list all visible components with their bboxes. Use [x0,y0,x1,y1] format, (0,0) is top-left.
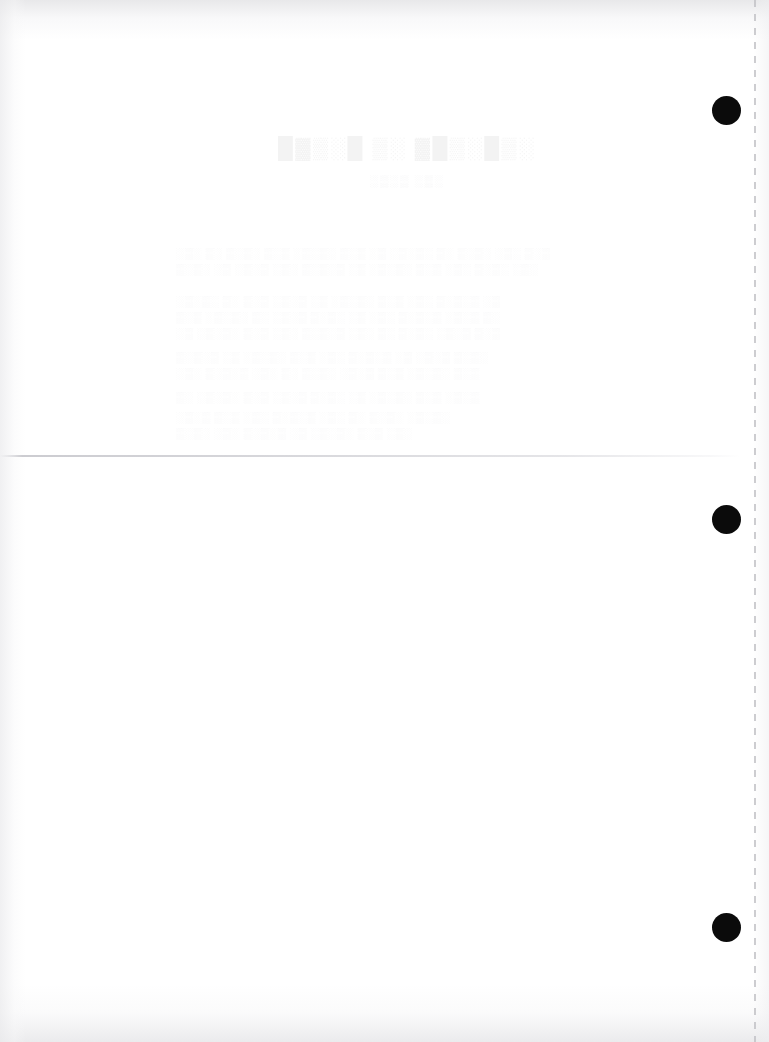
ghost-body-line: ░▒ ░▒░▒░ ▒░▒ ░▒░ ▒░▒░▒ ░▒░ ▒░ ▒░▒░ ░▒░▒ … [176,328,500,340]
ghost-body-line: ▒░▒░▒ ░▒ ░▒░▒░ ▒░▒ ░▒░ ▒░▒░▒ ░▒ ░▒░▒ ▒░▒… [176,352,488,364]
ghost-body-line: ▒░ ░▒░▒░ ▒░▒ ░▒░▒ ▒░▒░ ░▒ ░▒░▒░ ▒░▒ ░▒░▒ [176,392,480,404]
perforation-strip [754,0,756,1042]
ghost-title-line: █▓▒░█ ▒░ ▓█▒░█▒░ [278,136,536,161]
ghost-body-line: ▒░▒ ░▒░▒░ ▒░ ░▒░▒ ▒░▒░ ░▒ ░▒░ ▒░▒░▒ ░▒░▒… [176,312,500,324]
bleed-through-text-layer: █▓▒░█ ▒░ ▓█▒░█▒░ ░▒░▒ ░▒░ ░▒░ ▒░ ▒░▒░ ▒░… [0,0,769,1042]
page-edge-shading-left [0,0,26,1042]
bottom-registration-dot [712,913,741,942]
page-edge-shading-bottom [0,984,769,1042]
page-edge-shading-top [0,0,769,40]
page-edge-shading-right [753,0,769,1042]
ghost-body-line: ▒░▒░ ░▒ ░▒░▒ ░▒░ ▒░▒░▒ ░▒ ░▒░▒░ ▒░▒ ░▒░ … [176,264,538,276]
top-registration-dot [712,96,741,125]
ghost-subtitle-line: ░▒░▒ ░▒░ [370,174,445,189]
middle-registration-dot [712,505,741,534]
ghost-body-line: ░▒░▒░ ▒░ ▒░▒ ░▒░▒ ░▒ ░▒░▒░ ▒░▒ ░▒░ ▒░▒░▒… [176,296,500,308]
ghost-body-line: ░▒░▒ ▒░▒ ░▒░ ▒░▒░▒ ░▒░ ▒░ ▒░▒░ ░▒░▒░ [176,412,450,424]
fold-crease-line [0,455,740,457]
ghost-body-line: ░▒░ ▒░ ▒░▒░ ▒░▒ ░▒░▒░ ▒░▒ ░▒ ░▒░▒░ ▒░ ▒░… [176,248,550,260]
scanned-page: █▓▒░█ ▒░ ▓█▒░█▒░ ░▒░▒ ░▒░ ░▒░ ▒░ ▒░▒░ ▒░… [0,0,769,1042]
ghost-body-line: ▒░▒░ ░▒░ ▒░▒░▒ ░▒ ░▒░▒░ ▒░▒ ░▒░ [176,428,412,440]
ghost-body-line: ░▒░ ▒░▒░▒ ░▒░ ▒░ ▒░▒░ ░▒░▒ ▒░▒ ░▒░▒░ ▒░▒ [176,368,480,380]
